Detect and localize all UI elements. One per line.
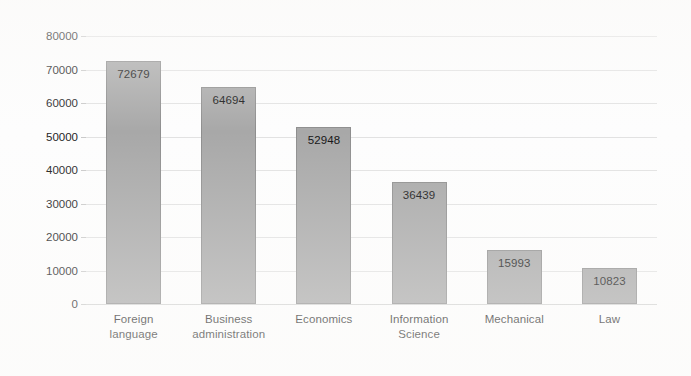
- y-axis-tick-50000: [81, 137, 86, 138]
- category-label-line: language: [86, 327, 181, 342]
- category-label-line: Foreign: [86, 312, 181, 327]
- y-axis-tick-label: 0: [20, 298, 78, 310]
- y-axis-tick-10000: [81, 271, 86, 272]
- y-axis-tick-70000: [81, 70, 86, 71]
- bar-value-label: 52948: [297, 134, 350, 146]
- y-axis-tick-label: 60000: [20, 97, 78, 109]
- category-label-line: administration: [181, 327, 276, 342]
- category-label-line: Science: [372, 327, 467, 342]
- bar: 72679: [106, 61, 161, 304]
- y-axis-tick-label: 70000: [20, 64, 78, 76]
- gridline-30000: [86, 204, 657, 205]
- x-axis-category-label: InformationScience: [372, 312, 467, 342]
- category-label-line: Law: [562, 312, 657, 327]
- gridline-0: [86, 304, 657, 305]
- gridline-80000: [86, 36, 657, 37]
- gridline-20000: [86, 237, 657, 238]
- gridline-40000: [86, 170, 657, 171]
- bar-value-label: 36439: [393, 189, 446, 201]
- x-axis-category-label: Mechanical: [467, 312, 562, 327]
- x-axis-category-label: Businessadministration: [181, 312, 276, 342]
- gridline-70000: [86, 70, 657, 71]
- y-axis-tick-label: 20000: [20, 231, 78, 243]
- y-axis-tick-label: 10000: [20, 265, 78, 277]
- y-axis-tick-label: 30000: [20, 198, 78, 210]
- y-axis-tick-label: 50000: [20, 131, 78, 143]
- category-label-line: Information: [372, 312, 467, 327]
- x-axis-category-label: Foreignlanguage: [86, 312, 181, 342]
- gridline-50000: [86, 137, 657, 138]
- bar: 10823: [582, 268, 637, 304]
- y-axis-tick-80000: [81, 36, 86, 37]
- y-axis-tick-40000: [81, 170, 86, 171]
- y-axis-tick-label: 80000: [20, 30, 78, 42]
- bar: 52948: [296, 127, 351, 304]
- category-label-line: Economics: [276, 312, 371, 327]
- bar: 15993: [487, 250, 542, 304]
- bar-value-label: 15993: [488, 257, 541, 269]
- plot-area: 726796469452948364391599310823: [86, 36, 657, 304]
- y-axis-tick-0: [81, 304, 86, 305]
- x-axis-category-label: Law: [562, 312, 657, 327]
- gridline-60000: [86, 103, 657, 104]
- y-axis-tick-20000: [81, 237, 86, 238]
- bar: 36439: [392, 182, 447, 304]
- bar-chart: 0100002000030000400005000060000700008000…: [0, 0, 691, 376]
- category-label-line: Mechanical: [467, 312, 562, 327]
- bar-value-label: 72679: [107, 68, 160, 80]
- y-axis-tick-30000: [81, 204, 86, 205]
- category-label-line: Business: [181, 312, 276, 327]
- bar-value-label: 10823: [583, 275, 636, 287]
- bar: 64694: [201, 87, 256, 304]
- bar-value-label: 64694: [202, 94, 255, 106]
- y-axis-tick-label: 40000: [20, 164, 78, 176]
- y-axis-tick-60000: [81, 103, 86, 104]
- gridline-10000: [86, 271, 657, 272]
- x-axis-category-label: Economics: [276, 312, 371, 327]
